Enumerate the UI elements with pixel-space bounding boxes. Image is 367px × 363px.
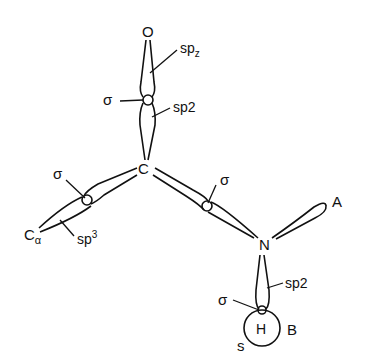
leader-sp3 xyxy=(60,220,74,236)
orbital-diagram: O C Cα N H spz sp2 σ σ sp3 σ A sp2 σ s B xyxy=(0,0,367,363)
label-sigma-nh: σ xyxy=(218,291,228,308)
label-spz: spz xyxy=(180,40,200,59)
leader-sigma-co xyxy=(120,100,143,101)
oxygen-spz-lobe xyxy=(140,40,154,97)
atom-calpha-label: Cα xyxy=(24,226,42,246)
sp3-main: sp xyxy=(77,231,92,247)
calpha-subscript: α xyxy=(35,234,42,246)
atom-oxygen-label: O xyxy=(142,23,154,40)
leader-sigma-nh xyxy=(233,300,259,310)
label-sigma-ccalpha: σ xyxy=(53,165,63,182)
label-sp3: sp3 xyxy=(77,229,98,247)
leader-sigma-ccalpha xyxy=(66,180,85,198)
label-sigma-co: σ xyxy=(103,91,113,108)
label-lone-pair-A: A xyxy=(332,193,342,210)
label-sp2-nh: sp2 xyxy=(285,275,308,291)
nitrogen-sp2-lobe-down xyxy=(256,255,269,309)
leader-spz xyxy=(150,50,177,73)
sp3-superscript: 3 xyxy=(92,229,98,240)
label-B: B xyxy=(287,321,297,338)
sigma-bond-cn-circle xyxy=(202,201,212,211)
label-sp2-co: sp2 xyxy=(173,99,196,115)
atom-carbon-label: C xyxy=(138,160,149,177)
leader-sigma-cn xyxy=(208,185,216,203)
sigma-bond-co-circle xyxy=(143,95,153,105)
calpha-main: C xyxy=(24,226,35,243)
label-s-orbital: s xyxy=(237,337,245,354)
carbon-sp2-lobe-right xyxy=(153,168,208,210)
leader-sp2-nh xyxy=(267,283,283,288)
carbon-sp2-lobe-up xyxy=(140,103,155,160)
nitrogen-lone-pair-lobe xyxy=(272,203,326,239)
spz-main: sp xyxy=(180,40,195,56)
atom-hydrogen-label: H xyxy=(256,321,266,337)
nitrogen-sp2-lobe-left xyxy=(208,202,258,238)
atom-nitrogen-label: N xyxy=(259,236,270,253)
spz-subscript: z xyxy=(195,48,200,59)
label-sigma-cn: σ xyxy=(220,171,230,188)
